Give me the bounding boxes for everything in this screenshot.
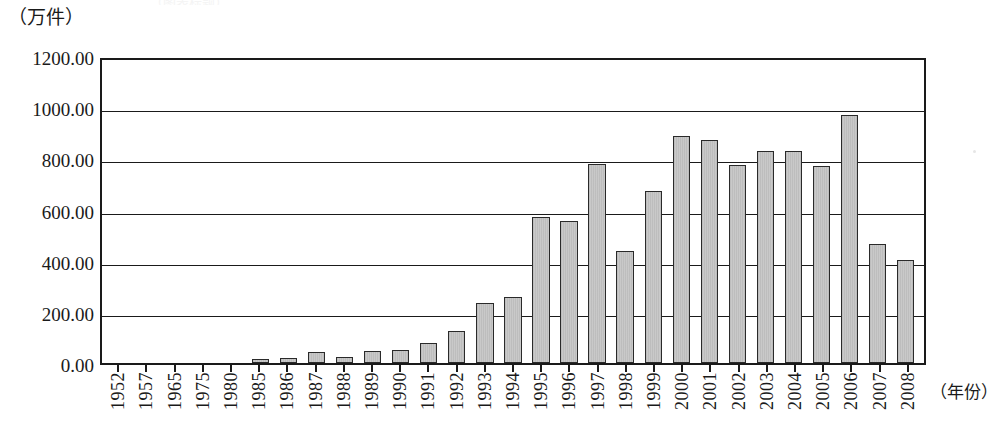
- x-tick-slot: [330, 365, 358, 372]
- x-label-slot: 1998: [612, 372, 640, 432]
- x-tick-slot: [132, 365, 160, 372]
- x-tick-slot: [837, 365, 865, 372]
- bar: [785, 151, 802, 363]
- x-axis-tick-label: 1980: [222, 372, 240, 410]
- x-label-slot: 1990: [386, 372, 414, 432]
- bar: [757, 151, 774, 363]
- x-axis-tick-label: 1989: [363, 372, 381, 410]
- x-axis-tick-label: 1965: [166, 372, 184, 410]
- x-label-slot: 1999: [640, 372, 668, 432]
- bar-slot: [162, 60, 190, 363]
- bar: [841, 115, 858, 363]
- bar-slot: [695, 60, 723, 363]
- x-axis-tick-label: 1998: [617, 372, 635, 410]
- x-label-slot: 2002: [724, 372, 752, 432]
- bar: [532, 217, 549, 363]
- x-axis-tick-mark: [568, 365, 570, 372]
- x-tick-slot: [301, 365, 329, 372]
- x-axis-tick-mark: [145, 365, 147, 372]
- bar-slot: [106, 60, 134, 363]
- x-tick-slot: [386, 365, 414, 372]
- x-label-slot: 1988: [330, 372, 358, 432]
- bar: [420, 343, 437, 363]
- x-tick-slot: [273, 365, 301, 372]
- x-axis-tick-mark: [117, 365, 119, 372]
- x-axis-tick-mark: [512, 365, 514, 372]
- x-tick-slot: [414, 365, 442, 372]
- bar: [364, 351, 381, 363]
- x-axis-tick-label: 1995: [532, 372, 550, 410]
- bar-slot: [443, 60, 471, 363]
- bar-slot: [274, 60, 302, 363]
- x-axis-tick-mark: [907, 365, 909, 372]
- bar: [560, 221, 577, 363]
- bar-slot: [667, 60, 695, 363]
- x-tick-slot: [894, 365, 922, 372]
- x-axis-tick-label: 1990: [391, 372, 409, 410]
- x-axis-tick-mark: [315, 365, 317, 372]
- y-axis-tick-label: 1000.00: [4, 100, 100, 119]
- x-tick-slot: [809, 365, 837, 372]
- x-label-slot: 1989: [358, 372, 386, 432]
- y-axis-tick-label: 400.00: [4, 253, 100, 272]
- x-axis-tick-mark: [709, 365, 711, 372]
- bar-slot: [302, 60, 330, 363]
- x-axis-tick-mark: [174, 365, 176, 372]
- x-label-slot: 1995: [527, 372, 555, 432]
- x-axis-tick-labels: 1952195719651975198019851986198719881989…: [100, 372, 926, 432]
- x-tick-slot: [217, 365, 245, 372]
- x-axis-tick-label: 1994: [504, 372, 522, 410]
- scan-speck: [973, 150, 976, 153]
- x-label-slot: 1980: [217, 372, 245, 432]
- bar-slot: [583, 60, 611, 363]
- x-axis-tick-label: 2003: [758, 372, 776, 410]
- x-axis-tick-mark: [427, 365, 429, 372]
- x-axis-tick-mark: [202, 365, 204, 372]
- x-axis-tick-mark: [540, 365, 542, 372]
- bar-slot: [218, 60, 246, 363]
- x-tick-slot: [555, 365, 583, 372]
- x-axis-tick-mark: [653, 365, 655, 372]
- x-tick-slot: [753, 365, 781, 372]
- bar: [616, 251, 633, 363]
- x-tick-slot: [442, 365, 470, 372]
- bar-slot: [527, 60, 555, 363]
- x-axis-tick-label: 1985: [250, 372, 268, 410]
- x-tick-slot: [640, 365, 668, 372]
- x-axis-tick-mark: [850, 365, 852, 372]
- x-label-slot: 2000: [668, 372, 696, 432]
- bar: [897, 260, 914, 363]
- x-axis-tick-label: 2004: [786, 372, 804, 410]
- bar-slot: [134, 60, 162, 363]
- bar-slot: [751, 60, 779, 363]
- x-axis-tick-mark: [681, 365, 683, 372]
- x-tick-slot: [499, 365, 527, 372]
- x-axis-tick-mark: [766, 365, 768, 372]
- bar-slot: [808, 60, 836, 363]
- bar: [308, 352, 325, 364]
- bar-series: [102, 60, 924, 363]
- x-label-slot: 1993: [471, 372, 499, 432]
- x-tick-slot: [865, 365, 893, 372]
- x-axis-tick-mark: [625, 365, 627, 372]
- bar-slot: [611, 60, 639, 363]
- y-axis-tick-label: 800.00: [4, 151, 100, 170]
- bar: [673, 136, 690, 363]
- x-axis-tick-mark: [399, 365, 401, 372]
- x-label-slot: 2007: [865, 372, 893, 432]
- x-label-slot: 1957: [132, 372, 160, 432]
- bar-slot: [499, 60, 527, 363]
- x-axis-tick-label: 2007: [871, 372, 889, 410]
- x-axis-tick-marks: [100, 365, 926, 372]
- x-axis-tick-label: 2005: [814, 372, 832, 410]
- x-axis-tick-label: 1992: [448, 372, 466, 410]
- x-tick-slot: [160, 365, 188, 372]
- x-label-slot: 2005: [809, 372, 837, 432]
- x-axis-tick-mark: [738, 365, 740, 372]
- bar-slot: [780, 60, 808, 363]
- x-label-slot: 1992: [442, 372, 470, 432]
- y-axis-tick-label: 0.00: [4, 356, 100, 375]
- bar-slot: [190, 60, 218, 363]
- x-label-slot: 1952: [104, 372, 132, 432]
- x-tick-slot: [245, 365, 273, 372]
